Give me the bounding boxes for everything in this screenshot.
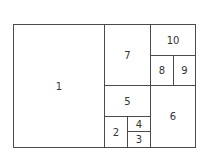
- cell-label: 8: [159, 65, 165, 76]
- cell-4: 4: [127, 116, 151, 132]
- cell-label: 6: [170, 111, 176, 122]
- cell-label: 10: [167, 35, 180, 46]
- cell-8: 8: [150, 55, 174, 86]
- cell-3: 3: [127, 131, 151, 148]
- rectangle-subdivision-diagram: 1 7 10 8 9 5 6 2 4 3: [0, 0, 206, 161]
- cell-9: 9: [173, 55, 196, 86]
- cell-1: 1: [13, 24, 105, 148]
- cell-2: 2: [104, 116, 128, 148]
- cell-label: 2: [113, 127, 119, 138]
- cell-label: 5: [124, 96, 130, 107]
- cell-6: 6: [150, 85, 196, 148]
- cell-7: 7: [104, 24, 151, 86]
- cell-label: 1: [56, 81, 62, 92]
- cell-label: 4: [136, 119, 142, 130]
- cell-label: 3: [136, 134, 142, 145]
- cell-5: 5: [104, 85, 151, 117]
- cell-label: 7: [124, 50, 130, 61]
- cell-label: 9: [181, 65, 187, 76]
- cell-10: 10: [150, 24, 196, 56]
